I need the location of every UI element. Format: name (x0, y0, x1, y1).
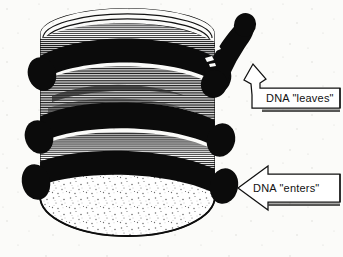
callout-dna-leaves-label: DNA "leaves" (266, 92, 334, 104)
coil-stack (26, 8, 226, 200)
callout-dna-enters-label: DNA "enters" (253, 182, 319, 194)
dna-coil-diagram: DNA "leaves" DNA "enters" (0, 0, 343, 257)
figure-canvas: DNA "leaves" DNA "enters" (0, 0, 343, 257)
spool-body (18, 8, 241, 236)
